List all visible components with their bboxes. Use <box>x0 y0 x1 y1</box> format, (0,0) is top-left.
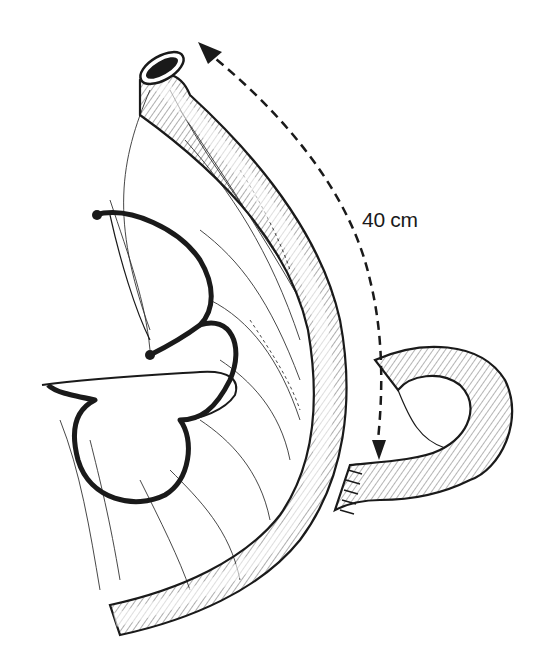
ligature-knot <box>92 210 102 220</box>
arrowhead-down-icon <box>372 440 386 460</box>
ligature-knot <box>145 350 155 360</box>
bowel-loop-right <box>335 347 512 510</box>
vessel-arcade <box>48 213 236 502</box>
medical-illustration: 40 cm <box>0 0 556 667</box>
bowel-drawing <box>0 0 556 667</box>
measurement-label: 40 cm <box>362 208 418 232</box>
